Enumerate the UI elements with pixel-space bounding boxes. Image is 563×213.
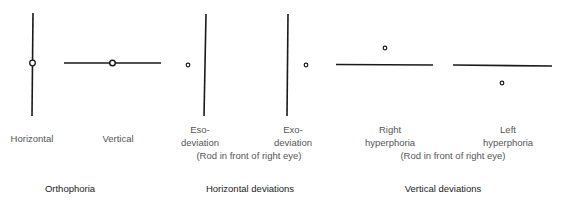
rod-streak-horizontal bbox=[336, 65, 433, 66]
light-spot-icon bbox=[304, 63, 308, 67]
panel-left-hyper-drawing bbox=[453, 65, 552, 85]
label-eso-line1: Eso- bbox=[175, 123, 225, 136]
label-vertical: Vertical bbox=[88, 132, 148, 145]
rod-streak-horizontal bbox=[453, 65, 552, 66]
label-exo: Exo- deviation bbox=[268, 123, 318, 149]
group-horizontal-deviations: Horizontal deviations bbox=[195, 183, 305, 194]
maddox-rod-diagram bbox=[0, 0, 563, 213]
light-spot-icon bbox=[110, 60, 116, 66]
light-spot-icon bbox=[186, 63, 190, 67]
label-exo-line1: Exo- bbox=[268, 123, 318, 136]
panel-horizontal-drawing bbox=[30, 13, 36, 116]
group-vertical-deviations: Vertical deviations bbox=[393, 183, 493, 194]
light-spot-icon bbox=[30, 60, 36, 66]
rod-streak-vertical bbox=[204, 14, 206, 116]
rod-note-horizontal: (Rod in front of right eye) bbox=[184, 149, 314, 162]
label-eso: Eso- deviation bbox=[175, 123, 225, 149]
label-left-hyper-line2: hyperphoria bbox=[473, 136, 543, 149]
label-left-hyper-line1: Left bbox=[473, 123, 543, 136]
panel-exo-drawing bbox=[287, 14, 308, 116]
panel-right-hyper-drawing bbox=[336, 46, 433, 65]
label-right-hyper: Right hyperphoria bbox=[355, 123, 425, 149]
group-orthophoria: Orthophoria bbox=[30, 183, 110, 194]
rod-streak-vertical bbox=[287, 14, 288, 116]
light-spot-icon bbox=[383, 46, 387, 50]
rod-note-vertical: (Rod in front of right eye) bbox=[388, 149, 518, 162]
label-left-hyper: Left hyperphoria bbox=[473, 123, 543, 149]
label-exo-line2: deviation bbox=[268, 136, 318, 149]
label-right-hyper-line2: hyperphoria bbox=[355, 136, 425, 149]
label-eso-line2: deviation bbox=[175, 136, 225, 149]
label-right-hyper-line1: Right bbox=[355, 123, 425, 136]
label-horizontal: Horizontal bbox=[2, 132, 62, 145]
panel-vertical-drawing bbox=[64, 60, 161, 66]
light-spot-icon bbox=[500, 81, 504, 85]
panel-eso-drawing bbox=[186, 14, 206, 116]
